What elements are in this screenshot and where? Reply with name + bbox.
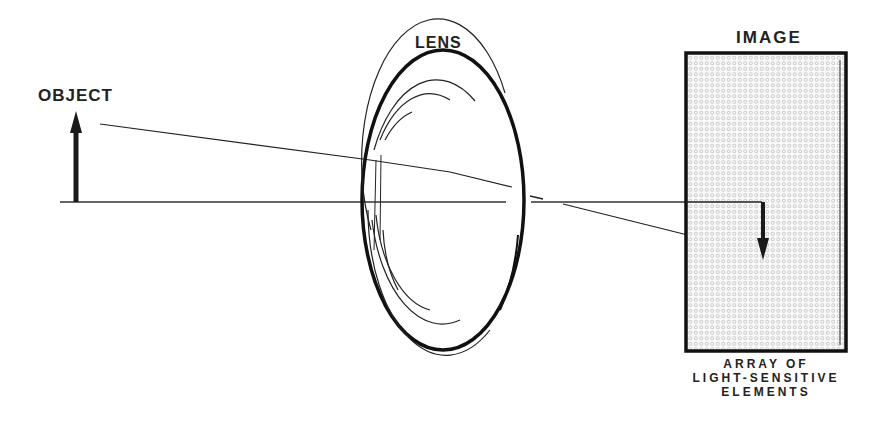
object-label: OBJECT (38, 86, 113, 106)
lens (362, 19, 524, 355)
caption-line: ARRAY OF (686, 357, 846, 371)
light-ray (100, 124, 760, 253)
lens-imaging-diagram: OBJECT LENS IMAGE ARRAY OF LIGHT-SENSITI… (0, 0, 887, 423)
caption-line: LIGHT-SENSITIVE (686, 371, 846, 385)
image-label: IMAGE (736, 28, 802, 48)
lens-label: LENS (415, 34, 462, 52)
object-arrow (70, 111, 82, 202)
caption-line: ELEMENTS (686, 385, 846, 399)
sensor-caption: ARRAY OF LIGHT-SENSITIVE ELEMENTS (686, 357, 846, 399)
